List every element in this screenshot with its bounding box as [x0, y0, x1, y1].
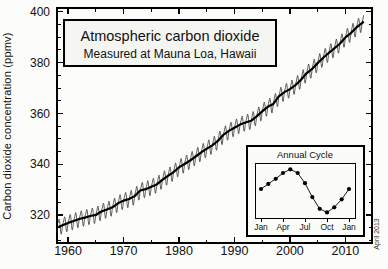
- inset-data-point: [274, 177, 278, 181]
- inset-data-point: [310, 195, 314, 199]
- chart-title: Atmospheric carbon dioxide: [81, 28, 260, 44]
- y-tick-label: 360: [30, 107, 50, 121]
- x-tick-label: 2010: [331, 244, 359, 258]
- inset-data-point: [266, 182, 270, 186]
- x-tick-label: 2000: [276, 244, 304, 258]
- inset-month-label: Jul: [300, 222, 311, 232]
- annual-cycle-inset: Annual Cycle JanAprJulOctJan: [247, 146, 364, 236]
- title-box: Atmospheric carbon dioxide Measured at M…: [64, 20, 276, 66]
- inset-month-label: Oct: [320, 222, 334, 232]
- inset-data-point: [318, 207, 322, 211]
- chart-subtitle: Measured at Mauna Loa, Hawaii: [84, 47, 257, 61]
- inset-data-point: [332, 205, 336, 209]
- co2-chart: 196019701980199020002010320340360380400 …: [0, 0, 388, 269]
- inset-data-point: [347, 187, 351, 191]
- inset-title: Annual Cycle: [277, 149, 333, 160]
- inset-data-point: [281, 171, 285, 175]
- date-watermark: April 2013: [373, 218, 381, 250]
- inset-month-label: Apr: [276, 222, 289, 232]
- y-tick-label: 320: [30, 208, 50, 222]
- inset-data-point: [340, 197, 344, 201]
- inset-data-point: [288, 167, 292, 171]
- keeling-curve-figure: 196019701980199020002010320340360380400 …: [0, 0, 388, 269]
- y-tick-label: 340: [30, 157, 50, 171]
- inset-month-label: Jan: [254, 222, 268, 232]
- inset-data-point: [303, 181, 307, 185]
- x-tick-label: 1960: [54, 244, 82, 258]
- x-tick-label: 1970: [110, 244, 138, 258]
- y-tick-label: 380: [30, 56, 50, 70]
- y-tick-label: 400: [30, 5, 50, 19]
- x-tick-label: 1990: [221, 244, 249, 258]
- y-axis-title: Carbon dioxide concentration (ppmv): [1, 32, 13, 219]
- inset-data-point: [296, 171, 300, 175]
- x-tick-label: 1980: [165, 244, 193, 258]
- inset-data-point: [259, 187, 263, 191]
- inset-data-point: [325, 210, 329, 214]
- inset-month-label: Jan: [342, 222, 356, 232]
